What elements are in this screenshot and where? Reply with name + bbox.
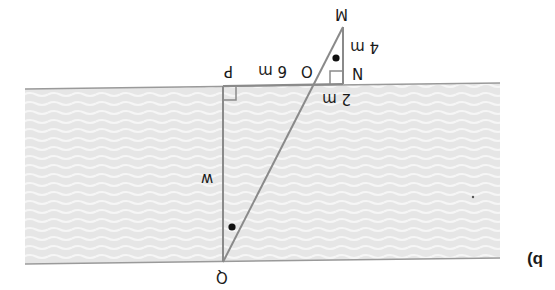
angle-dot-M (332, 54, 339, 61)
label-length-OP: 6 m (258, 63, 287, 78)
label-length-NO: 2 m (322, 91, 351, 106)
part-label: b) (527, 252, 543, 269)
similar-triangles-river-diagram: M 4 m N 2 m O 6 m P w Q b) (0, 0, 555, 290)
angle-dot-Q (228, 223, 235, 230)
label-point-N: N (352, 65, 363, 80)
right-angle-marker-N (330, 71, 343, 84)
label-point-P: P (224, 63, 233, 78)
label-point-Q: Q (216, 269, 228, 284)
label-length-PQ: w (201, 171, 213, 186)
diagram-canvas (0, 0, 555, 290)
label-point-O: O (301, 63, 313, 78)
speck (472, 196, 474, 198)
label-length-MN: 4 m (350, 39, 379, 54)
river-band (25, 83, 500, 264)
label-point-M: M (335, 6, 348, 21)
